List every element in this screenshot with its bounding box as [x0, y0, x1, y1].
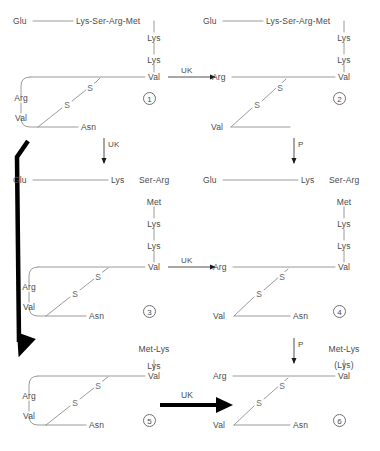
p4-lys-b: Lys: [337, 242, 350, 251]
p3-met: Met: [147, 198, 162, 207]
p5-val-top: Val: [148, 372, 160, 381]
p6-arg: Arg: [213, 372, 227, 381]
panel-4-number: 4: [333, 305, 346, 318]
p5-val-left: Val: [23, 412, 35, 421]
p3-lys-a: Lys: [147, 220, 160, 229]
p3-val-top: Val: [148, 263, 160, 272]
p3-asn: Asn: [89, 312, 104, 321]
p1-arg: Arg: [14, 94, 28, 103]
p4-asn: Asn: [293, 312, 308, 321]
p1-glu: Glu: [13, 17, 27, 26]
p3-lys: Lys: [111, 176, 124, 185]
p3-s-upper: S: [94, 272, 102, 282]
p1-val-top: Val: [148, 73, 160, 82]
p4-s-upper: S: [278, 272, 286, 282]
p2-val-top: Val: [338, 73, 350, 82]
p4-val-top: Val: [338, 263, 350, 272]
p6-asn: Asn: [293, 421, 308, 430]
rxn-label-1-to-2: UK: [181, 66, 193, 75]
p1-val-left: Val: [15, 114, 27, 123]
p2-s-lower: S: [253, 100, 261, 110]
p6-s-lower: S: [255, 398, 263, 408]
p4-arg: Arg: [213, 263, 227, 272]
panel-1-number: 1: [143, 92, 156, 105]
panel-3-number: 3: [143, 305, 156, 318]
p1-lys-b: Lys: [147, 56, 160, 65]
p6-s-upper: S: [278, 381, 286, 391]
diagram-root: Glu Lys-Ser-Arg-Met Lys Lys Val Arg Val …: [0, 0, 380, 451]
p4-val-bottom: Val: [213, 312, 225, 321]
p2-lys-b: Lys: [337, 56, 350, 65]
p5-s-upper: S: [94, 381, 102, 391]
p5-met-lys: Met-Lys: [139, 345, 170, 354]
rxn-label-3-to-4: UK: [181, 256, 193, 265]
p2-s-upper: S: [276, 83, 284, 93]
p3-glu: Glu: [13, 176, 27, 185]
p4-glu: Glu: [203, 176, 217, 185]
p3-ser-arg: Ser-Arg: [139, 176, 169, 185]
p1-asn: Asn: [81, 123, 96, 132]
p2-lys-ser-arg-met: Lys-Ser-Arg-Met: [266, 17, 330, 26]
arrow-5-to-6-head: [216, 397, 233, 413]
p2-glu: Glu: [203, 17, 217, 26]
p4-lys: Lys: [301, 176, 314, 185]
p5-asn: Asn: [89, 421, 104, 430]
p5-s-lower: S: [71, 398, 79, 408]
panel-5-number: 5: [143, 414, 156, 427]
p2-lys-a: Lys: [337, 34, 350, 43]
arrow-1-to-5-head: [9, 332, 36, 360]
p3-arg: Arg: [22, 283, 36, 292]
p5-lys: Lys: [147, 362, 160, 371]
p4-ser-arg: Ser-Arg: [329, 176, 359, 185]
panel-6-number: 6: [333, 414, 346, 427]
rxn-label-1-to-3: UK: [108, 140, 120, 149]
p6-met-lys: Met-Lys: [329, 345, 360, 354]
p6-lys-paren: (Lys): [334, 361, 353, 370]
p4-s-lower: S: [255, 289, 263, 299]
p6-val-bottom: Val: [213, 421, 225, 430]
rxn-label-5-to-6: UK: [181, 390, 193, 400]
panel-2-number: 2: [333, 92, 346, 105]
p2-val-bottom: Val: [211, 123, 223, 132]
p1-s-upper: S: [86, 83, 94, 93]
p4-lys-a: Lys: [337, 220, 350, 229]
p1-lys-a: Lys: [147, 34, 160, 43]
p3-val-left: Val: [23, 303, 35, 312]
p3-lys-b: Lys: [147, 242, 160, 251]
p2-arg: Arg: [212, 73, 226, 82]
p5-arg: Arg: [22, 392, 36, 401]
p4-met: Met: [337, 198, 352, 207]
p1-lys-ser-arg-met: Lys-Ser-Arg-Met: [76, 17, 140, 26]
p6-val-top: Val: [338, 372, 350, 381]
rxn-label-4-to-6: P: [298, 340, 304, 349]
rxn-label-2-to-4: P: [298, 140, 304, 149]
p1-s-lower: S: [63, 100, 71, 110]
p3-s-lower: S: [71, 289, 79, 299]
